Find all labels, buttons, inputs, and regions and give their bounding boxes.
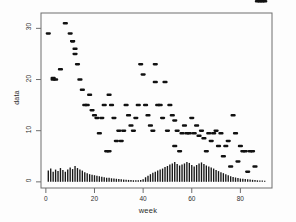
scatter-point	[126, 114, 131, 117]
scatter-point	[218, 132, 223, 135]
y-axis-tick-label: 30	[25, 19, 32, 35]
scatter-series	[46, 0, 268, 173]
scatter-point	[77, 78, 82, 81]
scatter-point	[221, 155, 226, 158]
scatter-point	[80, 89, 85, 92]
scatter-point	[46, 32, 51, 35]
scatter-point	[216, 145, 221, 148]
scatter-point	[230, 114, 235, 117]
scatter-point	[165, 129, 170, 132]
scatter-point	[153, 81, 158, 84]
scatter-point	[150, 129, 155, 132]
scatter-point	[238, 145, 243, 148]
scatter-point	[196, 135, 201, 138]
scatter-point	[209, 140, 214, 143]
scatter-point	[245, 170, 250, 173]
scatter-point	[97, 132, 102, 135]
scatter-point	[102, 104, 107, 107]
scatter-point	[192, 132, 197, 135]
scatter-point	[58, 68, 63, 71]
scatter-point	[175, 129, 180, 132]
scatter-point	[182, 124, 187, 127]
x-axis-tick-label: 20	[84, 195, 104, 202]
scatter-point	[235, 160, 240, 163]
scatter-point	[53, 78, 58, 81]
x-axis-tick-label: 0	[36, 195, 56, 202]
scatter-point	[179, 132, 184, 135]
scatter-point	[262, 0, 267, 3]
scatter-point	[99, 117, 104, 120]
x-axis-tick-label: 60	[182, 195, 202, 202]
scatter-point	[136, 104, 141, 107]
scatter-point	[106, 150, 111, 153]
figure-panel: data week 0102030 020406080	[0, 0, 296, 222]
scatter-point	[106, 94, 111, 97]
scatter-point	[226, 140, 231, 143]
scatter-point	[92, 114, 97, 117]
scatter-point	[211, 132, 216, 135]
scatter-point	[206, 132, 211, 135]
scatter-point	[75, 63, 80, 66]
scatter-point	[252, 165, 257, 168]
scatter-point	[63, 22, 68, 25]
scatter-point	[72, 53, 77, 56]
scatter-point	[119, 140, 124, 143]
y-axis-title: data	[13, 84, 20, 112]
scatter-point	[177, 150, 182, 153]
scatter-point	[199, 129, 204, 132]
scatter-point	[187, 132, 192, 135]
density-spike-series	[48, 162, 264, 182]
x-axis-tick-label: 80	[230, 195, 250, 202]
scatter-point	[121, 129, 126, 132]
scatter-point	[228, 165, 233, 168]
scatter-point	[172, 119, 177, 122]
scatter-point	[233, 132, 238, 135]
scatter-point	[213, 129, 218, 132]
scatter-point	[72, 48, 77, 51]
scatter-point	[162, 81, 167, 84]
scatter-point	[89, 109, 94, 112]
scatter-point	[87, 94, 92, 97]
scatter-point	[111, 117, 116, 120]
scatter-point	[128, 124, 133, 127]
scatter-point	[223, 145, 228, 148]
scatter-point	[143, 104, 148, 107]
x-axis-tick-label: 40	[133, 195, 153, 202]
scatter-point	[116, 129, 121, 132]
scatter-point	[243, 150, 248, 153]
scatter-point	[133, 117, 138, 120]
scatter-point	[158, 104, 163, 107]
y-axis-tick-label: 20	[25, 70, 32, 86]
scatter-point	[189, 117, 194, 120]
scatter-point	[194, 124, 199, 127]
scatter-point	[70, 40, 75, 43]
scatter-point	[124, 104, 129, 107]
scatter-point	[145, 114, 150, 117]
scatter-point	[85, 104, 90, 107]
scatter-point	[114, 140, 119, 143]
x-axis-title: week	[0, 206, 296, 215]
scatter-point	[201, 137, 206, 140]
scatter-point	[204, 150, 209, 153]
scatter-point	[160, 117, 165, 120]
scatter-point	[131, 129, 136, 132]
scatter-point	[153, 63, 158, 66]
y-axis-tick-label: 10	[25, 121, 32, 137]
scatter-point	[68, 32, 73, 35]
scatter-point	[172, 145, 177, 148]
y-axis-tick-label: 0	[25, 172, 32, 188]
scatter-point	[138, 63, 143, 66]
scatter-point	[170, 114, 175, 117]
scatter-plot-canvas	[0, 0, 296, 222]
scatter-point	[250, 150, 255, 153]
scatter-point	[141, 73, 146, 76]
scatter-point	[109, 104, 114, 107]
scatter-point	[148, 124, 153, 127]
scatter-point	[167, 104, 172, 107]
scatter-point	[94, 117, 99, 120]
